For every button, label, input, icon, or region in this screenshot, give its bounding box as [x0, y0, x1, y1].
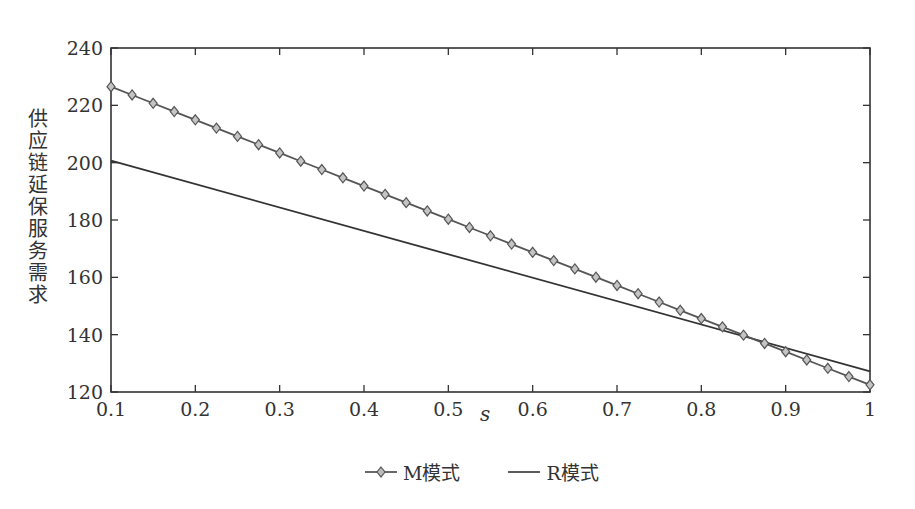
diamond-marker-icon [508, 239, 516, 249]
y-axis-label-char: 务 [26, 240, 50, 262]
legend-item-r: R模式 [506, 458, 598, 485]
y-axis-label-char: 供 [26, 108, 50, 130]
diamond-marker-icon [318, 165, 326, 175]
diamond-marker-icon [339, 173, 347, 183]
diamond-marker-icon [529, 247, 537, 257]
y-tick-label: 140 [67, 324, 103, 346]
diamond-marker-icon [297, 156, 305, 166]
y-axis-label-char: 应 [26, 130, 50, 152]
y-axis-label-char: 求 [26, 284, 50, 306]
diamond-marker-icon [149, 98, 157, 108]
y-tick-label: 200 [67, 152, 103, 174]
x-tick-label: 0.6 [518, 398, 548, 420]
diamond-marker-icon [170, 107, 178, 117]
diamond-marker-icon [571, 264, 579, 274]
diamond-marker-icon [255, 140, 263, 150]
diamond-marker-icon [381, 189, 389, 199]
x-tick-label: 0.7 [602, 398, 632, 420]
diamond-marker-icon [128, 90, 136, 100]
diamond-marker-icon [613, 280, 621, 290]
diamond-line-marker-icon [363, 465, 399, 479]
diamond-marker-icon [845, 372, 853, 382]
y-axis-label-char: 链 [26, 152, 50, 174]
y-tick-label: 220 [67, 94, 103, 116]
diamond-marker-icon [402, 198, 410, 208]
diamond-marker-icon [824, 363, 832, 373]
diamond-marker-icon [866, 380, 874, 390]
diamond-marker-icon [191, 115, 199, 125]
x-tick-label: 0.3 [265, 398, 295, 420]
y-axis-label-char: 延 [26, 174, 50, 196]
x-tick-label: 0.2 [180, 398, 210, 420]
diamond-marker-icon [276, 148, 284, 158]
y-tick-label: 240 [67, 37, 103, 59]
y-axis-label: 供 应 链 延 保 服 务 需 求 [26, 108, 50, 306]
diamond-marker-icon [740, 330, 748, 340]
plot-area: 0.10.20.30.40.50.60.70.80.91120140160180… [0, 0, 915, 509]
diamond-marker-icon [107, 82, 115, 92]
diamond-marker-icon [550, 256, 558, 266]
diamond-marker-icon [697, 314, 705, 324]
y-tick-label: 160 [67, 266, 103, 288]
line-marker-icon [506, 465, 542, 479]
y-axis-label-char: 保 [26, 196, 50, 218]
diamond-marker-icon [234, 131, 242, 141]
legend-item-m: M模式 [363, 458, 460, 485]
legend-label-m: M模式 [403, 458, 460, 485]
x-tick-label: 0.9 [771, 398, 801, 420]
diamond-marker-icon [444, 214, 452, 224]
diamond-marker-icon [655, 297, 663, 307]
diamond-marker-icon [592, 272, 600, 282]
diamond-marker-icon [212, 123, 220, 133]
legend-label-r: R模式 [546, 458, 598, 485]
diamond-marker-icon [676, 305, 684, 315]
diamond-marker-icon [761, 338, 769, 348]
y-axis-label-char: 服 [26, 218, 50, 240]
diamond-marker-icon [465, 222, 473, 232]
diamond-marker-icon [634, 289, 642, 299]
diamond-marker-icon [803, 355, 811, 365]
x-axis-label: s [480, 402, 490, 426]
y-tick-label: 180 [67, 209, 103, 231]
x-tick-label: 0.4 [349, 398, 379, 420]
diamond-marker-icon [360, 181, 368, 191]
diamond-marker-icon [423, 206, 431, 216]
x-tick-label: 0.5 [433, 398, 463, 420]
x-tick-label: 1 [864, 398, 876, 420]
legend: M模式 R模式 [363, 458, 645, 485]
x-tick-label: 0.8 [686, 398, 716, 420]
diamond-marker-icon [487, 231, 495, 241]
y-axis-label-char: 需 [26, 262, 50, 284]
chart: 0.10.20.30.40.50.60.70.80.91120140160180… [0, 0, 915, 509]
y-tick-label: 120 [67, 381, 103, 403]
